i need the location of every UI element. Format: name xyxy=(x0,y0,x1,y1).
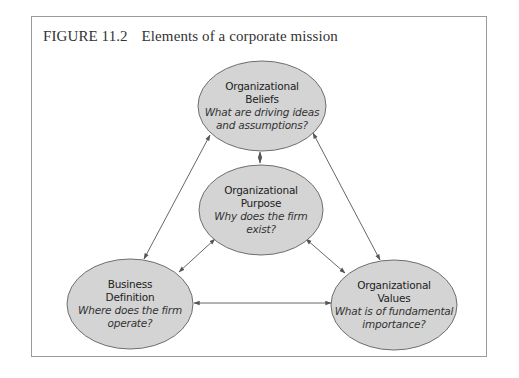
arrow-beliefs-values xyxy=(313,133,380,260)
node-title: Definition xyxy=(106,291,155,304)
node-title: Values xyxy=(377,292,410,305)
node-title: Business xyxy=(108,278,153,291)
node-question: exist? xyxy=(246,223,276,236)
node-values: Organizational Values What is of fundame… xyxy=(331,260,457,350)
node-title: Organizational xyxy=(357,279,431,292)
node-question: importance? xyxy=(362,318,425,331)
node-title: Purpose xyxy=(241,197,282,210)
node-business: Business Definition Where does the firm … xyxy=(67,259,193,349)
node-question: Why does the firm xyxy=(214,210,307,223)
node-title: Organizational xyxy=(225,80,299,93)
node-purpose: Organizational Purpose Why does the firm… xyxy=(199,165,323,255)
node-question: Where does the firm xyxy=(78,304,182,317)
node-question: What are driving ideas xyxy=(205,106,320,119)
node-beliefs: Organizational Beliefs What are driving … xyxy=(198,61,326,151)
node-title: Beliefs xyxy=(245,93,279,106)
node-question: operate? xyxy=(108,317,153,330)
node-title: Organizational xyxy=(224,184,298,197)
node-question: What is of fundamental xyxy=(335,305,454,318)
node-question: and assumptions? xyxy=(216,119,308,132)
